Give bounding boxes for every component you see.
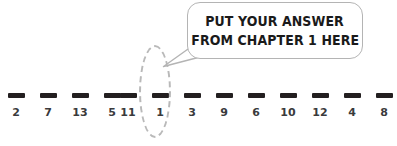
blank-slot-highlighted[interactable]: 1: [144, 93, 176, 119]
blank-slot[interactable]: 11: [112, 93, 144, 119]
blank-slot[interactable]: 6: [240, 93, 272, 119]
blank-slot[interactable]: 9: [208, 93, 240, 119]
blank-label: 9: [220, 107, 228, 119]
blank-label: 13: [72, 107, 87, 119]
blank-line[interactable]: [152, 93, 169, 98]
blank-line[interactable]: [248, 93, 265, 98]
answer-callout-bubble: PUT YOUR ANSWER FROM CHAPTER 1 HERE: [187, 2, 363, 59]
blank-label: 6: [252, 107, 260, 119]
callout-line-2: FROM CHAPTER 1 HERE: [191, 31, 359, 50]
blank-label: 10: [280, 107, 295, 119]
blank-slot[interactable]: 12: [304, 93, 336, 119]
blank-label: 3: [188, 107, 196, 119]
blank-line[interactable]: [344, 93, 361, 98]
blank-line[interactable]: [376, 93, 393, 98]
blank-group-right: 6 10 12 4 8: [240, 93, 397, 119]
blank-slot[interactable]: 8: [368, 93, 397, 119]
blank-label: 8: [380, 107, 388, 119]
blank-label: 12: [312, 107, 327, 119]
blank-slot[interactable]: 10: [272, 93, 304, 119]
blank-line[interactable]: [280, 93, 297, 98]
blank-line[interactable]: [184, 93, 201, 98]
blank-label: 2: [12, 107, 20, 119]
blank-line[interactable]: [216, 93, 233, 98]
blank-line[interactable]: [40, 93, 57, 98]
blank-slot[interactable]: 3: [176, 93, 208, 119]
blank-group-left: 2 7 13 5: [0, 93, 128, 119]
blank-line[interactable]: [312, 93, 329, 98]
blank-line[interactable]: [120, 93, 137, 98]
blank-slot[interactable]: 7: [32, 93, 64, 119]
blank-label: 7: [44, 107, 52, 119]
blank-slot[interactable]: 13: [64, 93, 96, 119]
blank-label: 4: [348, 107, 356, 119]
blank-group-middle: 11 1 3 9: [112, 93, 240, 119]
blank-line[interactable]: [72, 93, 89, 98]
callout-line-1: PUT YOUR ANSWER: [206, 12, 345, 31]
blank-line[interactable]: [8, 93, 25, 98]
blank-label: 11: [120, 107, 135, 119]
blank-slot[interactable]: 2: [0, 93, 32, 119]
blank-slot[interactable]: 4: [336, 93, 368, 119]
blank-label: 1: [156, 107, 164, 119]
